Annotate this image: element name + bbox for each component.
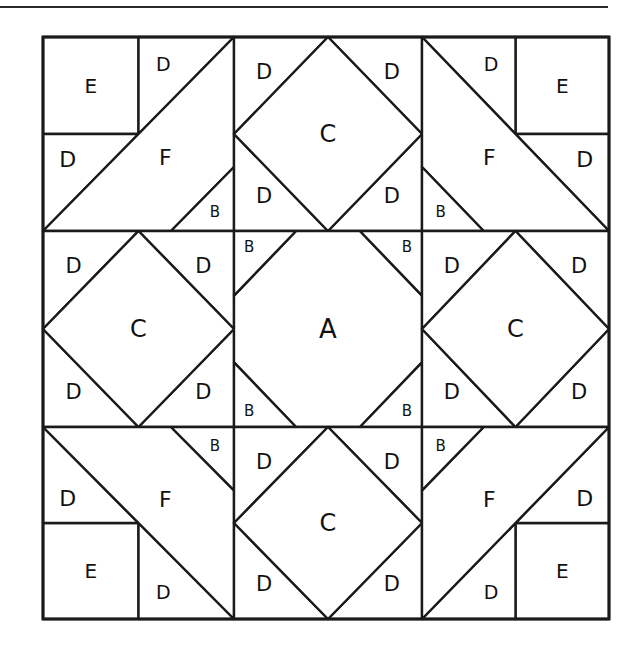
label-d: D	[444, 380, 460, 404]
block-center: ABBBB	[234, 231, 422, 427]
block-bottom-right: EDDFB	[422, 427, 609, 619]
label-d: D	[256, 572, 272, 596]
label-d: D	[576, 486, 593, 511]
label-d: D	[484, 53, 499, 75]
label-d: D	[59, 486, 76, 511]
label-e: E	[556, 74, 569, 98]
label-c: C	[320, 120, 337, 148]
label-f: F	[483, 145, 496, 170]
quilt-block-diagram: EDDFBCDDDDEDDFBCDDDDABBBBCDDDDEDDFBCDDDD…	[0, 0, 632, 656]
label-b: B	[402, 238, 412, 256]
label-d: D	[65, 380, 81, 404]
label-d: D	[256, 184, 272, 208]
label-b: B	[402, 402, 412, 420]
label-c: C	[507, 315, 524, 343]
block-top-left: EDDFB	[43, 37, 234, 231]
label-d: D	[384, 450, 400, 474]
label-d: D	[384, 572, 400, 596]
label-d: D	[156, 581, 171, 603]
label-b: B	[436, 203, 446, 221]
label-b: B	[244, 402, 254, 420]
label-d: D	[384, 184, 400, 208]
block-top-right: EDDFB	[422, 37, 609, 231]
block-middle-left: CDDDD	[43, 231, 234, 427]
label-d: D	[576, 147, 593, 172]
label-b: B	[436, 437, 446, 455]
label-d: D	[195, 380, 211, 404]
label-e: E	[84, 74, 97, 98]
label-f: F	[159, 145, 172, 170]
label-e: E	[84, 559, 97, 583]
label-d: D	[571, 254, 587, 278]
block-top-center: CDDDD	[234, 37, 422, 231]
block-bottom-left: EDDFB	[43, 427, 234, 619]
label-d: D	[59, 147, 76, 172]
label-b: B	[210, 203, 220, 221]
label-d: D	[65, 254, 81, 278]
label-b: B	[244, 238, 254, 256]
quilt-blocks: EDDFBCDDDDEDDFBCDDDDABBBBCDDDDEDDFBCDDDD…	[43, 37, 609, 619]
block-bottom-center: CDDDD	[234, 427, 422, 619]
label-d: D	[195, 254, 211, 278]
label-d: D	[256, 450, 272, 474]
label-d: D	[484, 581, 499, 603]
label-d: D	[156, 53, 171, 75]
label-b: B	[210, 437, 220, 455]
label-d: D	[384, 60, 400, 84]
label-d: D	[444, 254, 460, 278]
label-c: C	[320, 509, 337, 537]
label-c: C	[130, 315, 147, 343]
label-d: D	[571, 380, 587, 404]
label-a: A	[319, 314, 337, 344]
label-e: E	[556, 559, 569, 583]
label-f: F	[159, 487, 172, 512]
block-middle-right: CDDDD	[422, 231, 609, 427]
label-f: F	[483, 487, 496, 512]
label-d: D	[256, 60, 272, 84]
